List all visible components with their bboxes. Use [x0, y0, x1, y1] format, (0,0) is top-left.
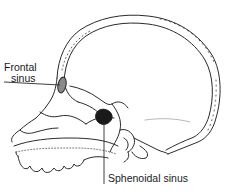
sphenoidal-sinus-label: Sphenoidal sinus [108, 173, 188, 184]
cranium-outer [57, 15, 220, 154]
frontal-sinus-label-line2: sinus [11, 73, 36, 84]
cranium-inner [64, 23, 212, 150]
skull-diagram [0, 0, 226, 194]
